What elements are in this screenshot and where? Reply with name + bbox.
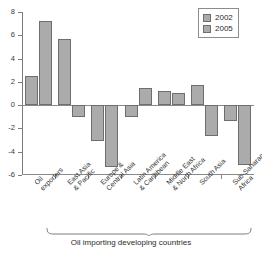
y-tick-label--2: -2 [8,123,15,132]
bar-2005-0 [39,21,52,105]
bar-2002-1 [58,39,71,105]
bar-2002-5 [191,85,204,105]
legend-label-2005: 2005 [215,24,233,33]
y-tick-label--6: -6 [8,170,15,179]
chart-annotation-caption: Oil importing developing countries [0,238,262,248]
y-tick-2: 2 [18,82,22,83]
legend-swatch-2005 [203,25,211,33]
bar-2002-0 [25,76,38,105]
y-axis-line [22,12,23,175]
bar-2002-3 [125,105,138,117]
bar-2005-6 [238,105,251,164]
y-tick--6: -6 [18,175,22,176]
legend-item-2002: 2002 [203,12,233,23]
y-tick-label-2: 2 [11,77,15,86]
legend-item-2005: 2005 [203,23,233,34]
bar-2005-4 [172,93,185,105]
y-tick--2: -2 [18,128,22,129]
y-tick-8: 8 [18,12,22,13]
legend-label-2002: 2002 [215,13,233,22]
bar-2002-6 [224,105,237,121]
y-tick-0: 0 [18,105,22,106]
bar-2005-5 [205,105,218,136]
y-tick-6: 6 [18,35,22,36]
y-tick-label-6: 6 [11,30,15,39]
bar-2002-2 [91,105,104,141]
y-tick-4: 4 [18,59,22,60]
legend: 2002 2005 [198,8,239,38]
x-tick-6 [221,174,222,179]
bar-chart: 86420-2-4-6 OilexportersEast Asia& Pacif… [0,0,262,254]
y-tick-label-4: 4 [11,54,15,63]
zero-baseline [22,105,254,106]
y-tick-label--4: -4 [8,147,15,156]
y-tick-label-0: 0 [11,100,15,109]
bar-2005-3 [139,88,152,105]
y-tick-label-8: 8 [11,7,15,16]
bar-2002-4 [158,91,171,105]
y-tick--4: -4 [18,152,22,153]
legend-swatch-2002 [203,14,211,22]
bar-2005-1 [72,105,85,117]
group-bracket-icon [46,228,252,236]
bar-2005-2 [105,105,118,167]
